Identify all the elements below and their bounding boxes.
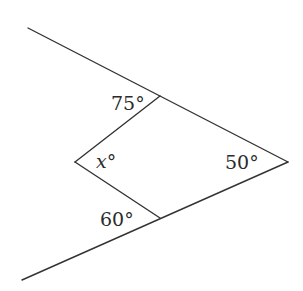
diagram-canvas: 75° x° 50° 60° xyxy=(0,0,303,291)
angle-diagram: 75° x° 50° 60° xyxy=(0,0,303,291)
angle-label-60: 60° xyxy=(100,208,134,230)
angle-label-75: 75° xyxy=(111,92,145,114)
angle-label-50: 50° xyxy=(225,151,259,173)
upper-ray-line xyxy=(28,28,288,162)
lower-ray-line xyxy=(22,162,288,280)
angle-label-x: x° xyxy=(96,150,116,172)
